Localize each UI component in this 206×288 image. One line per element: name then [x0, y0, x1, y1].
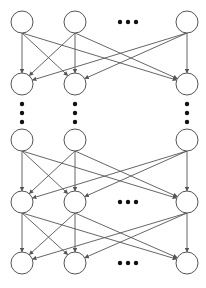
node-layer-n-2-2 — [176, 129, 198, 151]
node-layer-n-1-0 — [11, 191, 33, 213]
horizontal-ellipsis-dot — [126, 261, 130, 265]
horizontal-ellipsis-dot — [134, 200, 138, 204]
node-layer-n-1-2 — [176, 191, 198, 213]
node-layer-2-0 — [11, 73, 33, 95]
node-layer-2-1 — [64, 73, 86, 95]
horizontal-ellipsis-dot — [118, 20, 122, 24]
network-diagram — [0, 0, 206, 288]
edge-arrow — [22, 213, 177, 259]
node-layer-n-2-1 — [64, 129, 86, 151]
edge-arrow — [22, 151, 177, 198]
node-layer-n-2 — [176, 252, 198, 274]
edge-arrow — [22, 33, 68, 76]
node-layer-n-1-1 — [64, 191, 86, 213]
nodes — [11, 11, 198, 274]
horizontal-ellipsis-dot — [118, 200, 122, 204]
vertical-ellipsis-dot — [185, 102, 189, 106]
edge-arrow — [85, 151, 187, 197]
edge-arrow — [75, 33, 177, 79]
node-layer-n-2-0 — [11, 129, 33, 151]
horizontal-ellipsis-dot — [126, 20, 130, 24]
edge-arrow — [85, 33, 187, 79]
vertical-ellipsis-dot — [185, 120, 189, 124]
edge-arrow — [75, 151, 177, 197]
node-layer-n-1 — [64, 252, 86, 274]
node-layer-1-1 — [64, 11, 86, 33]
vertical-ellipsis-dot — [73, 102, 77, 106]
node-layer-2-2 — [176, 73, 198, 95]
vertical-ellipsis-dot — [20, 111, 24, 115]
vertical-ellipsis-dot — [73, 111, 77, 115]
edge-arrow — [75, 213, 177, 258]
edge-arrow — [22, 151, 68, 194]
vertical-ellipsis-dot — [73, 120, 77, 124]
horizontal-ellipsis-dot — [126, 200, 130, 204]
horizontal-ellipsis-dot — [134, 20, 138, 24]
edge-arrow — [22, 33, 177, 80]
edge-arrow — [22, 213, 68, 255]
vertical-ellipsis-dot — [185, 111, 189, 115]
node-layer-n-0 — [11, 252, 33, 274]
vertical-ellipsis-dot — [20, 120, 24, 124]
horizontal-ellipsis-dot — [118, 261, 122, 265]
node-layer-1-2 — [176, 11, 198, 33]
vertical-ellipsis-dot — [20, 102, 24, 106]
ellipsis-markers — [20, 20, 189, 265]
edge-arrow — [85, 213, 187, 258]
edges — [22, 33, 187, 259]
horizontal-ellipsis-dot — [134, 261, 138, 265]
node-layer-1-0 — [11, 11, 33, 33]
